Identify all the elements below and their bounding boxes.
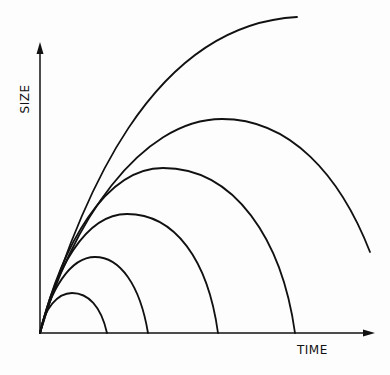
growth-curves-diagram <box>0 0 390 375</box>
x-axis-arrow-icon <box>363 330 375 337</box>
curve-2 <box>40 257 148 333</box>
axes <box>37 42 376 337</box>
curves <box>40 17 370 333</box>
curve-5 <box>40 119 370 333</box>
x-axis-label: TIME <box>297 343 328 357</box>
curve-6 <box>40 17 297 333</box>
y-axis-label: SIZE <box>18 82 32 116</box>
curve-4 <box>40 168 295 333</box>
y-axis-arrow-icon <box>37 42 44 54</box>
